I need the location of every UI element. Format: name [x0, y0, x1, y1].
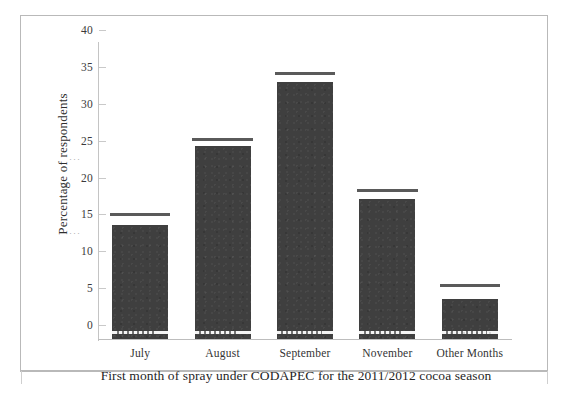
x-axis-tick-label: November	[346, 347, 428, 360]
bar-base-dots	[117, 331, 157, 334]
x-axis-tick-label: July	[99, 347, 181, 360]
frame-tail-left	[21, 371, 22, 384]
scan-smudge: ···	[69, 154, 81, 164]
y-axis-tick-label: 5	[65, 283, 93, 295]
bar-group[interactable]	[112, 44, 168, 339]
bar-group[interactable]	[359, 44, 415, 339]
caption-divider-rule	[21, 370, 547, 371]
bar-base-dots	[364, 331, 404, 334]
bar-cap-line	[440, 284, 500, 287]
bar-cap-line	[110, 213, 170, 216]
bar-cap-line	[192, 138, 252, 141]
bar[interactable]	[277, 82, 333, 339]
x-axis-tick-labels: JulyAugustSeptemberNovemberOther Months	[99, 347, 511, 367]
bar[interactable]	[359, 199, 415, 339]
bar[interactable]	[195, 146, 251, 339]
x-axis-tick-label: August	[181, 347, 263, 360]
bar[interactable]	[112, 225, 168, 339]
x-axis-tick-label: September	[264, 347, 346, 360]
bar[interactable]	[442, 299, 498, 339]
bar-base-dots	[446, 331, 486, 334]
bar-group[interactable]	[277, 44, 333, 339]
bar-cap-line	[275, 72, 335, 75]
bar-cap-line	[357, 189, 417, 192]
y-axis-tick-label: 0	[65, 320, 93, 332]
bar-base-dots	[281, 331, 321, 334]
x-axis-tick-label: Other Months	[429, 347, 511, 360]
y-axis-tick	[99, 30, 106, 31]
bar-group[interactable]	[442, 44, 498, 339]
bar-base-dots	[199, 331, 239, 334]
scan-smudge: ···	[69, 228, 81, 238]
frame-tail-right	[547, 371, 548, 384]
figure-frame: 0510152025303540 Percentage of responden…	[20, 15, 548, 372]
x-axis-line	[98, 339, 512, 340]
bar-group[interactable]	[195, 44, 251, 339]
y-axis-tick-label: 40	[65, 25, 93, 37]
plot-area	[99, 44, 511, 339]
